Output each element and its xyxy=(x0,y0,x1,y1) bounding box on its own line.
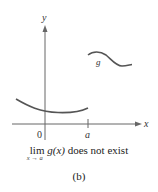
lim-operator: lim x → a xyxy=(30,144,45,156)
curve-left-branch xyxy=(16,99,88,113)
y-axis-label: y xyxy=(41,12,47,23)
function-expression: g(x) xyxy=(47,144,65,156)
tick-label-a: a xyxy=(85,129,90,140)
x-axis-label: x xyxy=(143,118,149,129)
x-axis-arrow-icon xyxy=(135,122,142,127)
limit-diagram: y x 0 a g xyxy=(0,0,158,192)
limit-statement: lim x → a g(x) does not exist xyxy=(0,144,158,156)
origin-label: 0 xyxy=(37,129,42,140)
lim-subscript: x → a xyxy=(27,154,43,161)
limit-statement-text: does not exist xyxy=(65,144,128,156)
curve-right-branch xyxy=(88,52,132,66)
panel-label: (b) xyxy=(0,170,158,182)
y-axis-arrow-icon xyxy=(43,25,48,32)
curve-label-g: g xyxy=(96,57,101,67)
